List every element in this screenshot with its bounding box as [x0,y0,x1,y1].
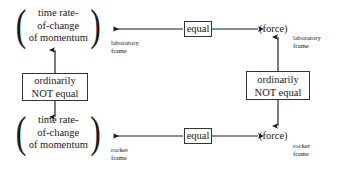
box-not-equal-right-line-1: ordinarily [257,73,298,86]
momentum-rocket-line-2: of-change [37,127,79,140]
subscript-momentum-rocket-line-1: rocket [111,146,128,154]
open-paren-momentum-rocket: ( [16,115,27,151]
momentum-rocket-text: time rate- of-change of momentum [28,114,89,152]
force-rocket-label: (force) [259,130,288,141]
subscript-force-rocket: rocket frame [293,142,310,157]
close-paren-momentum-rocket: ) [90,115,101,151]
subscript-momentum-lab: laboratory frame [111,39,139,54]
node-force-rocket: (force) [259,130,288,142]
box-not-equal-left-line-1: ordinarily [34,74,75,87]
diagram-canvas: ( time rate- of-change of momentum ) lab… [0,0,341,170]
box-equal-bottom[interactable]: equal [184,128,212,144]
momentum-lab-line-2: of-change [37,20,79,33]
box-not-equal-right[interactable]: ordinarily NOT equal [246,71,310,100]
subscript-force-rocket-line-1: rocket [293,142,310,150]
force-lab-label: (force) [259,23,288,34]
node-force-laboratory: (force) [259,23,288,35]
subscript-force-lab: laboratory frame [293,34,321,49]
box-not-equal-right-line-2: NOT equal [255,86,302,99]
box-equal-top[interactable]: equal [184,21,212,37]
subscript-momentum-rocket-line-2: frame [111,154,128,162]
open-paren-momentum-lab: ( [16,8,27,44]
subscript-force-lab-line-1: laboratory [293,34,321,42]
momentum-rocket-line-1: time rate- [38,114,79,127]
box-equal-top-label: equal [187,23,210,35]
box-not-equal-left-line-2: NOT equal [32,87,79,100]
momentum-lab-text: time rate- of-change of momentum [28,7,89,45]
node-momentum-rocket: ( time rate- of-change of momentum ) [13,114,104,152]
subscript-force-lab-line-2: frame [293,42,321,50]
box-equal-bottom-label: equal [187,130,210,142]
node-momentum-laboratory: ( time rate- of-change of momentum ) [13,7,104,45]
momentum-lab-line-1: time rate- [38,7,79,20]
momentum-lab-line-3: of momentum [29,32,88,45]
subscript-momentum-lab-line-2: frame [111,47,139,55]
subscript-force-rocket-line-2: frame [293,150,310,158]
close-paren-momentum-lab: ) [90,8,101,44]
momentum-rocket-line-3: of momentum [29,139,88,152]
subscript-momentum-lab-line-1: laboratory [111,39,139,47]
box-not-equal-left[interactable]: ordinarily NOT equal [22,73,88,101]
subscript-momentum-rocket: rocket frame [111,146,128,161]
